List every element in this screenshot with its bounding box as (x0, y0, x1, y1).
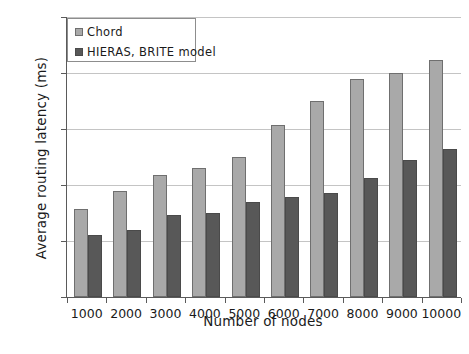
bar-hieras-5000 (246, 202, 260, 297)
legend-item-hieras: HIERAS, BRITE model (75, 45, 216, 59)
x-tick-mark (382, 298, 383, 303)
bar-chord-2000 (113, 191, 127, 297)
y-tick-mark (61, 241, 66, 242)
legend-label-chord: Chord (87, 25, 123, 39)
x-tick-mark (461, 298, 462, 303)
bar-hieras-6000 (285, 197, 299, 297)
bar-group (303, 17, 342, 297)
y-tick-mark (61, 129, 66, 130)
legend-swatch-icon-chord (75, 28, 83, 36)
x-tick-mark (185, 298, 186, 303)
bar-hieras-7000 (324, 193, 338, 297)
chart-legend: Chord HIERAS, BRITE model (67, 18, 196, 62)
bar-chord-7000 (310, 101, 324, 297)
bar-chord-4000 (192, 168, 206, 297)
legend-swatch-icon-hieras (75, 48, 83, 56)
y-tick-mark (61, 297, 66, 298)
bar-chord-1000 (74, 209, 88, 297)
bar-group (225, 17, 264, 297)
bar-chord-8000 (350, 79, 364, 297)
bar-group (382, 17, 421, 297)
x-tick-mark (303, 298, 304, 303)
y-tick-mark (61, 185, 66, 186)
x-axis-title: Number of nodes (66, 313, 460, 329)
bar-group (422, 17, 461, 297)
x-tick-mark (106, 298, 107, 303)
y-axis-title: Average routing latency (ms) (33, 18, 49, 298)
x-tick-mark (343, 298, 344, 303)
y-tick-mark (61, 17, 66, 18)
bar-chord-3000 (153, 175, 167, 297)
bar-group (343, 17, 382, 297)
bar-chord-10000 (429, 60, 443, 297)
bar-hieras-3000 (167, 215, 181, 297)
x-tick-mark (225, 298, 226, 303)
bar-chord-9000 (389, 73, 403, 297)
legend-label-hieras: HIERAS, BRITE model (87, 45, 216, 59)
bar-hieras-4000 (206, 213, 220, 297)
bar-hieras-10000 (443, 149, 457, 297)
bar-hieras-8000 (364, 178, 378, 297)
y-tick-mark (61, 73, 66, 74)
bar-hieras-9000 (403, 160, 417, 297)
x-tick-mark (146, 298, 147, 303)
bar-group (264, 17, 303, 297)
x-tick-mark (67, 298, 68, 303)
bar-chart-figure: Average routing latency (ms) 05001000150… (0, 0, 469, 354)
x-tick-mark (422, 298, 423, 303)
x-tick-mark (264, 298, 265, 303)
bar-chord-6000 (271, 125, 285, 297)
bar-hieras-2000 (127, 230, 141, 297)
bar-hieras-1000 (88, 235, 102, 297)
bar-chord-5000 (232, 157, 246, 297)
legend-item-chord: Chord (75, 25, 123, 39)
